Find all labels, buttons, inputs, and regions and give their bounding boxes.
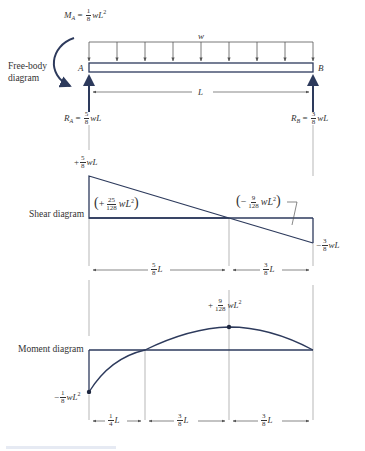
guide-lines <box>89 125 313 420</box>
moment-dim-label-3: 38L <box>260 413 273 428</box>
load-intensity-label: w <box>198 32 204 41</box>
support-b-label: B <box>318 64 324 73</box>
beam-diagram-figure: MA = 18wL2 w Free-body diagram A B L RA … <box>0 0 365 451</box>
reaction-b-label: RB = 38wL <box>291 111 328 126</box>
support-a-label: A <box>78 64 84 73</box>
moment-diagram-label: Moment diagram <box>18 345 84 355</box>
negative-area-leader <box>287 202 297 225</box>
moment-min-label: −18wL2 <box>54 390 81 405</box>
shear-negative-area-label: (−9128wL2) <box>236 194 281 210</box>
moment-curved-arrow <box>54 38 74 86</box>
reaction-a-label: RA = 58wL <box>64 111 101 126</box>
moment-curve <box>89 327 313 392</box>
shear-diagram <box>89 176 313 270</box>
span-label: L <box>198 88 203 97</box>
free-body-diagram <box>54 38 313 112</box>
free-body-label-line2: diagram <box>8 74 39 84</box>
figure-caption-bar <box>6 446 116 449</box>
shear-diagram-label: Shear diagram <box>29 210 84 220</box>
shear-dim-label-2: 38L <box>262 262 275 277</box>
shear-positive-area-label: (+25128wL2) <box>94 196 139 212</box>
load-arrows <box>89 42 313 61</box>
moment-dim-label-1: 14L <box>107 413 120 428</box>
moment-min-point <box>87 390 91 394</box>
distributed-load <box>89 42 313 61</box>
moment-dim-label-2: 38L <box>176 413 189 428</box>
shear-sloped-line <box>229 218 313 243</box>
shear-min-label: −38wL <box>316 238 340 253</box>
moment-max-label: +9128wL2 <box>208 298 242 313</box>
moment-diagram <box>87 325 313 421</box>
beam <box>89 63 313 72</box>
fixed-end-moment-label: MA = 18wL2 <box>64 8 106 23</box>
moment-max-point <box>227 325 231 329</box>
shear-dim-label-1: 58L <box>150 262 163 277</box>
free-body-label-line1: Free-body <box>8 62 47 72</box>
shear-max-label: +58wL <box>74 155 98 170</box>
